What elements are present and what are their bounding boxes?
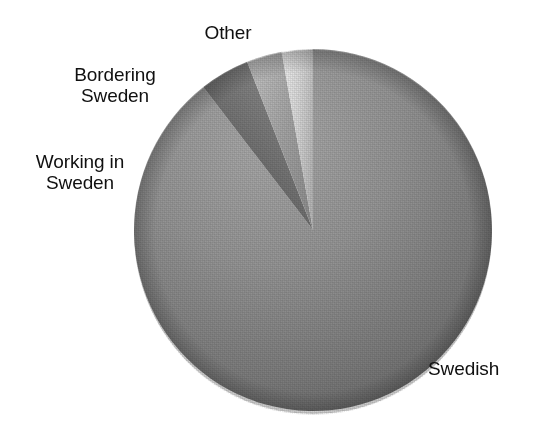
slice-label-working-in-sweden: Working in Sweden xyxy=(18,151,142,193)
slice-label-swedish: Swedish xyxy=(428,358,518,379)
pie-chart: Other Bordering Sweden Working in Sweden… xyxy=(0,0,551,428)
slice-label-other: Other xyxy=(196,22,260,43)
pie-chart-page: Other Bordering Sweden Working in Sweden… xyxy=(0,0,551,428)
slice-label-bordering-sweden: Bordering Sweden xyxy=(60,64,170,106)
